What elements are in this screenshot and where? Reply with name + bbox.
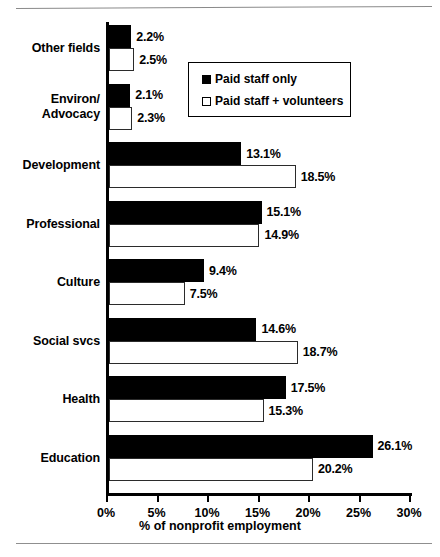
bar-row: 9.4%: [109, 259, 412, 282]
bar-group: 14.6%18.7%: [109, 318, 412, 364]
category-label: Culture: [0, 275, 100, 290]
category-label: Professional: [0, 217, 100, 232]
bar-value-label: 14.9%: [264, 228, 298, 242]
bar-paid: [109, 84, 130, 107]
bar-row: 20.2%: [109, 458, 412, 481]
bar-vol: [109, 399, 264, 422]
category-label: Social svcs: [0, 334, 100, 349]
bar-group: 26.1%20.2%: [109, 435, 412, 481]
category-label: Other fields: [0, 41, 100, 56]
bar-vol: [109, 107, 132, 130]
page-rule-bottom: [16, 543, 432, 544]
open-square-icon: [202, 97, 211, 106]
bar-row: 15.1%: [109, 201, 412, 224]
bar-value-label: 2.3%: [137, 111, 165, 125]
category-label: Education: [0, 451, 100, 466]
bar-row: 2.2%: [109, 25, 412, 48]
bar-row: 18.5%: [109, 165, 412, 188]
bar-paid: [109, 25, 131, 48]
bar-row: 13.1%: [109, 142, 412, 165]
bar-row: 14.9%: [109, 224, 412, 247]
bar-vol: [109, 458, 313, 481]
category-label: Health: [0, 392, 100, 407]
x-axis-tick-label: 30%: [379, 506, 439, 520]
category-label: Development: [0, 158, 100, 173]
bar-value-label: 2.5%: [139, 53, 167, 67]
bar-group: 13.1%18.5%: [109, 142, 412, 188]
bar-paid: [109, 376, 286, 399]
bar-row: 15.3%: [109, 399, 412, 422]
bar-value-label: 9.4%: [209, 264, 237, 278]
chart-legend: Paid staff only Paid staff + volunteers: [188, 62, 351, 117]
x-axis-title: % of nonprofit employment: [0, 519, 440, 533]
legend-item-paid-staff-plus-volunteers: Paid staff + volunteers: [202, 94, 343, 108]
legend-label: Paid staff only: [215, 72, 297, 86]
x-axis-tick: [409, 496, 411, 502]
filled-square-icon: [202, 75, 211, 84]
x-axis-tick: [207, 496, 209, 502]
bar-vol: [109, 341, 298, 364]
bar-row: 14.6%: [109, 318, 412, 341]
page-rule-top: [16, 6, 432, 9]
bar-group: 15.1%14.9%: [109, 201, 412, 247]
bar-value-label: 15.1%: [267, 205, 301, 219]
bar-paid: [109, 435, 373, 458]
bar-value-label: 17.5%: [291, 381, 325, 395]
bar-value-label: 26.1%: [378, 439, 412, 453]
bar-paid: [109, 142, 241, 165]
bar-value-label: 2.1%: [135, 88, 163, 102]
x-axis-tick: [308, 496, 310, 502]
bar-vol: [109, 48, 134, 71]
bar-value-label: 2.2%: [136, 30, 164, 44]
nonprofit-employment-bar-chart: 2.2%2.5%2.1%2.3%13.1%18.5%15.1%14.9%9.4%…: [0, 0, 440, 557]
x-axis-tick: [157, 496, 159, 502]
bar-row: 7.5%: [109, 282, 412, 305]
bar-paid: [109, 318, 256, 341]
bar-row: 18.7%: [109, 341, 412, 364]
bar-value-label: 20.2%: [318, 462, 352, 476]
x-axis-tick: [258, 496, 260, 502]
category-label: Environ/Advocacy: [0, 92, 100, 122]
bar-group: 9.4%7.5%: [109, 259, 412, 305]
bar-value-label: 15.3%: [269, 404, 303, 418]
bar-value-label: 18.7%: [303, 345, 337, 359]
bar-vol: [109, 224, 259, 247]
bar-value-label: 13.1%: [246, 147, 280, 161]
bar-paid: [109, 201, 262, 224]
bar-value-label: 18.5%: [301, 170, 335, 184]
bar-vol: [109, 165, 296, 188]
legend-item-paid-staff-only: Paid staff only: [202, 72, 297, 86]
bar-row: 26.1%: [109, 435, 412, 458]
x-axis-tick: [359, 496, 361, 502]
bar-vol: [109, 282, 185, 305]
bar-value-label: 7.5%: [190, 287, 218, 301]
bar-paid: [109, 259, 204, 282]
legend-label: Paid staff + volunteers: [215, 94, 343, 108]
bar-value-label: 14.6%: [261, 322, 295, 336]
bar-group: 17.5%15.3%: [109, 376, 412, 422]
bar-row: 17.5%: [109, 376, 412, 399]
x-axis-tick: [106, 496, 108, 502]
